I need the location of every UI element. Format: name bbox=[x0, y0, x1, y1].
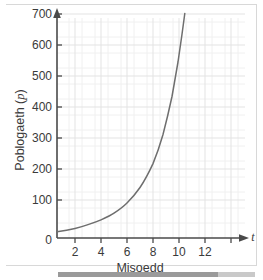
y-tick-label-700: 700 bbox=[32, 7, 52, 21]
bottom-gray-bar-tail bbox=[218, 272, 255, 277]
y-tick-label-100: 100 bbox=[32, 193, 52, 207]
svg-text:Poblogaeth (p): Poblogaeth (p) bbox=[13, 89, 27, 170]
y-axis-tick-labels: 700 600 500 400 300 200 100 0 bbox=[32, 7, 52, 247]
y-axis-title-close: ) bbox=[13, 89, 27, 93]
y-axis-title: Poblogaeth (p) bbox=[13, 89, 27, 170]
bottom-gray-bar bbox=[58, 272, 218, 277]
y-axis-arrow-icon bbox=[53, 8, 61, 18]
population-growth-chart: 700 600 500 400 300 200 100 0 2 4 6 8 10… bbox=[0, 0, 263, 280]
x-tick-label-2: 2 bbox=[72, 245, 79, 259]
x-tick-label-10: 10 bbox=[172, 245, 186, 259]
x-tick-label-4: 4 bbox=[98, 245, 105, 259]
x-tick-label-8: 8 bbox=[150, 245, 157, 259]
y-tick-label-0: 0 bbox=[45, 233, 52, 247]
x-axis-tick-labels: 2 4 6 8 10 12 bbox=[72, 245, 212, 259]
y-axis bbox=[53, 8, 61, 238]
y-tick-label-500: 500 bbox=[32, 69, 52, 83]
grid-major-vertical bbox=[75, 18, 231, 238]
y-tick-label-600: 600 bbox=[32, 38, 52, 52]
y-tick-label-300: 300 bbox=[32, 131, 52, 145]
x-axis-variable-label: t bbox=[251, 230, 255, 244]
y-axis-title-variable: p bbox=[13, 94, 27, 101]
x-tick-label-12: 12 bbox=[198, 245, 212, 259]
figure-container: 700 600 500 400 300 200 100 0 2 4 6 8 10… bbox=[0, 0, 263, 280]
x-axis-arrow-icon bbox=[239, 234, 249, 242]
y-tick-label-400: 400 bbox=[32, 100, 52, 114]
y-axis-title-text: Poblogaeth ( bbox=[13, 99, 27, 171]
grid-major-horizontal bbox=[57, 14, 245, 200]
grid-minor-horizontal bbox=[57, 22, 245, 223]
y-tick-label-200: 200 bbox=[32, 162, 52, 176]
x-tick-label-6: 6 bbox=[124, 245, 131, 259]
